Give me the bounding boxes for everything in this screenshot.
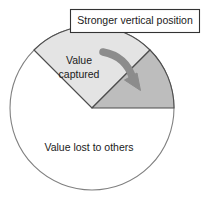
slice-label-value-captured-line1: Value — [66, 54, 92, 66]
pie-chart-svg: Value captured Value lost to others Stro… — [0, 0, 204, 206]
pie-figure-root: Value captured Value lost to others Stro… — [0, 0, 204, 206]
slice-label-value-captured-line2: captured — [59, 68, 100, 80]
callout-label: Stronger vertical position — [77, 14, 193, 26]
slice-label-value-lost: Value lost to others — [44, 141, 133, 153]
